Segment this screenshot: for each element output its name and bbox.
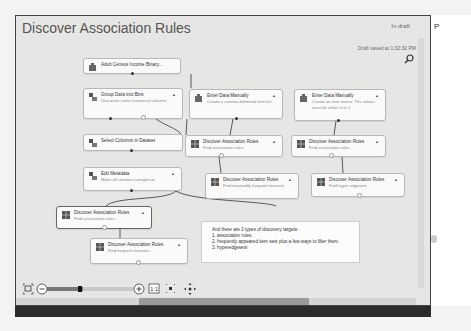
grid-icon	[62, 211, 70, 219]
node-discover-frequent-itemsets[interactable]: Discover Association Rules Find frequent…	[90, 238, 188, 264]
output-port[interactable]	[357, 193, 362, 198]
node-title: Discover Association Rules	[309, 139, 364, 144]
node-title: Discover Association Rules	[329, 177, 384, 182]
node-enter-data-manually-1[interactable]: Enter Data Manually Create a comma-delim…	[189, 89, 283, 119]
output-port[interactable]	[102, 225, 107, 230]
node-discover-association-rules-2[interactable]: Discover Association Rules Find associat…	[185, 135, 283, 157]
panel-title-initial: P	[434, 22, 439, 31]
node-title: Enter Data Manually	[207, 93, 249, 98]
node-description: Find frequent itemsets	[108, 248, 174, 254]
chevron-up-icon[interactable]: ▲	[272, 93, 276, 98]
chevron-up-icon[interactable]: ▲	[141, 210, 145, 215]
node-description: Make all columns categorical	[101, 177, 167, 183]
module-icon	[89, 93, 97, 101]
horizontal-scrollbar[interactable]	[16, 298, 416, 305]
node-description: Find maximally frequent itemsets	[223, 183, 289, 189]
node-description: Discretize some numerical columns	[101, 98, 167, 104]
node-title: Edit Metadata	[101, 171, 129, 176]
node-group-data-into-bins[interactable]: Group Data into Bins Discretize some num…	[83, 88, 183, 119]
dataset-icon	[89, 63, 97, 71]
node-select-columns[interactable]: Select Columns in Dataset	[83, 134, 183, 151]
zoom-slider-filled[interactable]	[47, 287, 83, 291]
chevron-up-icon[interactable]: ▲	[288, 177, 292, 182]
fit-to-screen-icon[interactable]	[23, 284, 33, 294]
zoom-slider-track[interactable]	[83, 287, 133, 291]
node-description: Find association rules	[203, 145, 269, 151]
node-description: Find hyper edgesets	[329, 183, 395, 189]
output-port[interactable]	[219, 153, 224, 158]
output-port[interactable]	[130, 189, 133, 192]
output-port[interactable]	[329, 153, 334, 158]
dataset-icon	[300, 94, 308, 102]
dataset-icon	[195, 94, 203, 102]
output-port[interactable]	[131, 72, 134, 75]
pan-icon[interactable]	[184, 283, 196, 295]
node-title: Discover Association Rules	[223, 177, 278, 182]
chevron-up-icon[interactable]: ▲	[272, 139, 276, 144]
node-title: Enter Data Manually	[312, 93, 354, 98]
node-title: Discover Association Rules	[203, 139, 258, 144]
node-description: Find association rules	[309, 145, 375, 151]
connection-wires	[16, 16, 432, 307]
node-enter-data-manually-2[interactable]: Enter Data Manually Create an item matri…	[294, 89, 386, 121]
comment-note[interactable]: And there are 3 types of discovery targe…	[201, 221, 360, 263]
grid-icon	[211, 178, 219, 186]
node-discover-association-rules-1[interactable]: Discover Association Rules Find associat…	[56, 206, 152, 229]
output-port[interactable]	[141, 115, 146, 120]
experiment-canvas-window: Discover Association Rules In draft Draf…	[15, 15, 431, 306]
zoom-out-button[interactable]	[37, 284, 47, 294]
chevron-up-icon[interactable]: ▲	[171, 171, 175, 176]
node-title: Adult Census Income Binary...	[101, 62, 162, 67]
output-port[interactable]	[136, 260, 141, 265]
module-icon	[89, 172, 97, 180]
panel-toggle[interactable]	[431, 235, 437, 243]
chevron-up-icon[interactable]: ▲	[394, 177, 398, 182]
chevron-up-icon[interactable]: ▲	[172, 92, 176, 97]
node-description: Create an item matrix. The values must b…	[312, 99, 378, 110]
grid-icon	[191, 140, 199, 148]
horizontal-scroll-thumb[interactable]	[139, 298, 309, 305]
center-icon[interactable]	[166, 284, 175, 293]
chevron-up-icon[interactable]: ▲	[375, 93, 379, 98]
taskbar	[15, 306, 431, 317]
output-port[interactable]	[109, 117, 112, 120]
node-discover-association-rules-3[interactable]: Discover Association Rules Find associat…	[291, 135, 386, 157]
output-port[interactable]	[130, 149, 133, 152]
zoom-in-button[interactable]	[134, 284, 144, 294]
properties-panel: P	[431, 15, 471, 306]
node-description: Create a comma-delimited item list	[207, 99, 273, 105]
svg-text:1:1: 1:1	[150, 286, 158, 292]
node-edit-metadata[interactable]: Edit Metadata Make all columns categoric…	[83, 167, 182, 191]
node-title: Discover Association Rules	[74, 210, 129, 215]
node-discover-maximally-frequent[interactable]: Discover Association Rules Find maximall…	[205, 173, 299, 199]
grid-icon	[297, 140, 305, 148]
output-port[interactable]	[235, 117, 238, 120]
node-adult-census[interactable]: Adult Census Income Binary...	[83, 58, 181, 74]
actual-size-button[interactable]: 1:1	[149, 284, 159, 293]
node-description: Find association rules	[74, 216, 140, 222]
note-line: 3. hyperedgesets	[212, 245, 359, 251]
grid-icon	[96, 243, 104, 251]
output-port[interactable]	[337, 119, 340, 122]
node-title: Group Data into Bins	[101, 92, 144, 97]
zoom-slider-thumb[interactable]	[78, 286, 82, 292]
zoom-controls: 1:1	[23, 282, 183, 296]
node-discover-hyper-edgesets[interactable]: Discover Association Rules Find hyper ed…	[311, 173, 405, 197]
module-icon	[89, 139, 97, 147]
node-title: Select Columns in Dataset	[101, 138, 155, 143]
node-title: Discover Association Rules	[108, 242, 163, 247]
chevron-up-icon[interactable]: ▲	[177, 242, 181, 247]
grid-icon	[317, 178, 325, 186]
chevron-up-icon[interactable]: ▲	[375, 139, 379, 144]
